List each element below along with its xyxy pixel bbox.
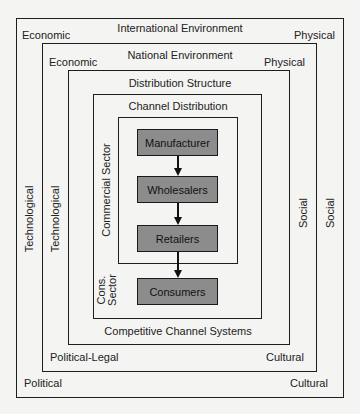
arrow-down-icon — [174, 217, 182, 225]
consumer-sector-label-line2: Sector — [106, 274, 119, 306]
arrow-down-icon — [174, 168, 182, 176]
national-cultural-label: Cultural — [266, 351, 304, 364]
national-social-label: Social — [297, 198, 310, 228]
retailers-node: Retailers — [137, 225, 218, 252]
national-technological-label: Technological — [49, 186, 62, 253]
competitive-channel-systems-label: Competitive Channel Systems — [104, 325, 251, 338]
retailers-label: Retailers — [156, 233, 199, 245]
arrow-down-icon — [174, 270, 182, 278]
commercial-sector-label: Commercial Sector — [100, 143, 113, 237]
national-economic-label: Economic — [49, 56, 97, 69]
consumers-label: Consumers — [149, 286, 205, 298]
international-physical-label: Physical — [294, 29, 335, 42]
international-cultural-label: Cultural — [290, 377, 328, 390]
international-social-label: Social — [324, 198, 337, 228]
international-political-label: Political — [24, 377, 62, 390]
wholesalers-node: Wholesalers — [137, 176, 218, 203]
consumers-node: Consumers — [137, 278, 218, 305]
arrow-wholesalers-to-retailers-line — [177, 203, 179, 218]
manufacturer-label: Manufacturer — [145, 137, 210, 149]
wholesalers-label: Wholesalers — [147, 184, 208, 196]
arrow-retailers-to-consumers-line — [177, 252, 179, 271]
national-political-legal-label: Political-Legal — [50, 351, 118, 364]
manufacturer-node: Manufacturer — [137, 129, 218, 156]
international-environment-title: International Environment — [117, 22, 242, 35]
national-environment-title: National Environment — [127, 49, 232, 62]
channel-distribution-title: Channel Distribution — [128, 100, 227, 113]
distribution-structure-title: Distribution Structure — [129, 77, 232, 90]
international-technological-label: Technological — [23, 186, 36, 253]
national-physical-label: Physical — [264, 56, 305, 69]
international-economic-label: Economic — [22, 29, 70, 42]
